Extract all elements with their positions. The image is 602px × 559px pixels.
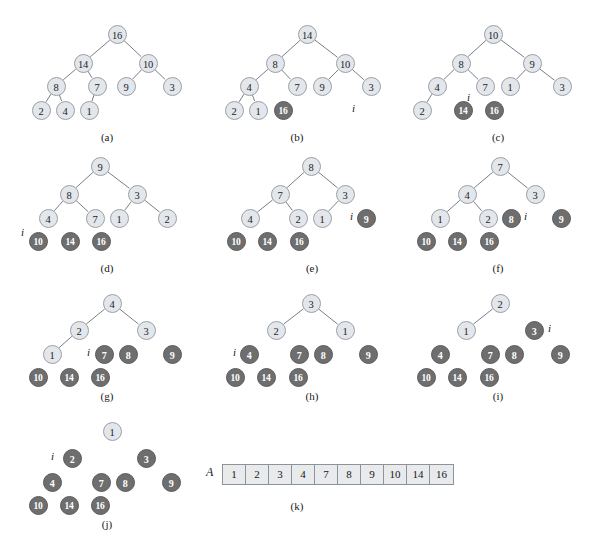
array-cell: 4 (292, 465, 315, 484)
array-cell: 1 (223, 465, 246, 484)
sorted-array: 1234789101416 (222, 464, 454, 485)
array-cell: 7 (315, 465, 338, 484)
array-cell: 2 (246, 465, 269, 484)
array-cell: 9 (361, 465, 384, 484)
array-cell: 3 (269, 465, 292, 484)
array-cell: 10 (384, 465, 407, 484)
panel-caption-k: (k) (277, 500, 317, 512)
heapsort-figure: 1614108793241(a)1481047932116i(b)1089471… (0, 0, 602, 559)
array-cell: 14 (407, 465, 430, 484)
array-cell: 8 (338, 465, 361, 484)
array-cell: 16 (430, 465, 453, 484)
panel-k: A1234789101416(k) (0, 0, 602, 559)
array-name-label: A (206, 465, 213, 480)
